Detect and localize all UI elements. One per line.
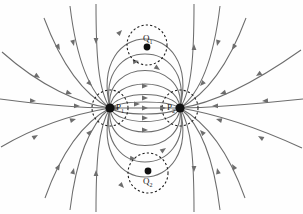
charge-p2-marker [175, 103, 184, 112]
point-q1-marker [144, 44, 151, 51]
field-diagram-svg: P1 P2 Q1 Q2 [0, 0, 303, 214]
charge-p1-marker [105, 103, 114, 112]
point-q2-marker [145, 168, 152, 175]
field-line-figure: P1 P2 Q1 Q2 [0, 0, 303, 214]
